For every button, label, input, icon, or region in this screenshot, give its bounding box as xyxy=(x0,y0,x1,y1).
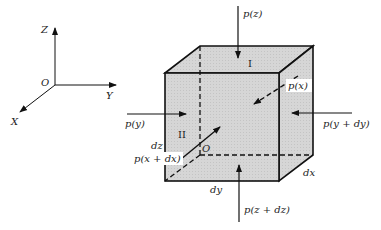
face-label-ii: II xyxy=(178,129,186,140)
label-p-x: p(x) xyxy=(288,80,308,91)
label-p-y-dy: p(y + dy) xyxy=(323,118,370,129)
y-axis-label: Y xyxy=(106,90,114,101)
label-p-x-dx: p(x + dx) xyxy=(134,153,181,164)
z-axis-label: Z xyxy=(40,24,49,35)
label-p-z: p(z) xyxy=(243,8,263,19)
dimension-dz: dz xyxy=(151,140,163,151)
label-p-y: p(y) xyxy=(125,118,145,129)
origin-label: O xyxy=(41,77,49,88)
cube-origin-label: O xyxy=(202,143,210,154)
dimension-dx: dx xyxy=(303,167,315,178)
x-axis xyxy=(20,85,55,112)
dimension-dy: dy xyxy=(210,184,222,195)
label-p-z-dz: p(z + dz) xyxy=(244,204,290,215)
coordinate-axes: Z Y X O xyxy=(10,24,116,127)
pressure-cube-diagram: Z Y X O I II O dz dy dx p(z) p(z + dz) xyxy=(0,0,381,230)
face-label-i: I xyxy=(248,58,252,69)
cube: I II O dz dy dx xyxy=(151,46,315,195)
x-axis-label: X xyxy=(10,116,19,127)
